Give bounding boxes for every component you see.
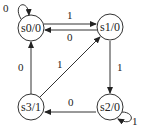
state-label-s2: s2/0 xyxy=(100,100,120,114)
edge-label-s0-s1: 1 xyxy=(67,9,73,21)
edge-s3-s1 xyxy=(40,37,100,97)
edge-label-s1-s2: 1 xyxy=(117,61,123,73)
state-diagram: 0 1 0 1 1 0 0 1 s0/0 s1/0 s2/0 s3/1 xyxy=(0,0,147,135)
edge-label-s3-s1: 1 xyxy=(57,58,63,70)
edge-label-s2-s3: 0 xyxy=(68,96,74,108)
state-label-s3: s3/1 xyxy=(21,100,41,114)
edge-label-s2-s2: 1 xyxy=(132,115,138,127)
state-s2: s2/0 xyxy=(97,94,123,120)
state-s1: s1/0 xyxy=(97,14,123,40)
state-s0: s0/0 xyxy=(18,15,44,41)
state-label-s0: s0/0 xyxy=(21,21,41,35)
edge-label-s0-s0: 0 xyxy=(3,2,9,14)
state-s3: s3/1 xyxy=(18,94,44,120)
edge-label-s3-s0: 0 xyxy=(18,61,24,73)
state-label-s1: s1/0 xyxy=(100,20,120,34)
edge-label-s1-s0: 0 xyxy=(67,31,73,43)
